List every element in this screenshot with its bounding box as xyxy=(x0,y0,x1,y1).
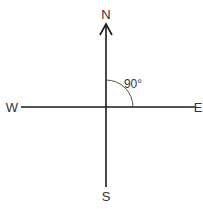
angle-label: 90° xyxy=(124,77,142,91)
north-label: N xyxy=(101,7,110,22)
compass-diagram: N S W E 90° xyxy=(0,0,203,209)
east-label: E xyxy=(194,100,203,115)
south-label: S xyxy=(102,189,111,204)
west-label: W xyxy=(6,100,19,115)
